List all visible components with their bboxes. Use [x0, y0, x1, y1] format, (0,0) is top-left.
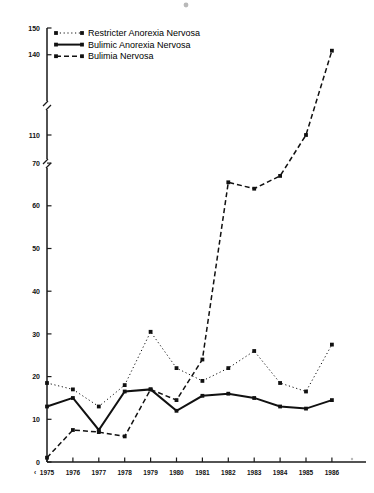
data-point-marker: [330, 49, 334, 53]
data-point-marker: [330, 343, 334, 347]
x-tick-label: 1982: [221, 469, 236, 476]
legend-label: Bulimia Nervosa: [88, 51, 154, 61]
y-tick-label: 60: [32, 202, 40, 209]
legend-label: Restricter Anorexia Nervosa: [88, 28, 200, 38]
y-tick-label: 10: [32, 416, 40, 423]
x-tick-label: 1983: [247, 469, 262, 476]
data-point-marker: [175, 409, 179, 413]
data-point-marker: [278, 174, 282, 178]
data-point-marker: [97, 430, 101, 434]
data-point-marker: [226, 180, 230, 184]
x-tick-label: 1978: [117, 469, 132, 476]
data-point-marker: [71, 428, 75, 432]
x-tick-label: 1985: [299, 469, 314, 476]
data-point-marker: [175, 366, 179, 370]
y-tick-label: 50: [32, 245, 40, 252]
legend-marker-start: [54, 31, 58, 35]
data-point-marker: [201, 358, 205, 362]
scan-artifact-speck: [184, 3, 189, 8]
data-point-marker: [123, 383, 127, 387]
legend-label: Bulimic Anorexia Nervosa: [88, 40, 191, 50]
y-tick-label: 40: [32, 288, 40, 295]
data-point-marker: [226, 366, 230, 370]
x-tick-label: 1986: [325, 469, 340, 476]
data-point-marker: [45, 456, 49, 460]
data-point-marker: [71, 396, 75, 400]
y-tick-label: 20: [32, 373, 40, 380]
data-point-marker: [304, 133, 308, 137]
data-point-marker: [71, 388, 75, 392]
x-tick-label: 1984: [273, 469, 288, 476]
y-tick-label: 70: [32, 160, 40, 167]
data-point-marker: [252, 349, 256, 353]
legend-marker-start: [54, 43, 58, 47]
data-point-marker: [123, 435, 127, 439]
y-tick-label: 150: [28, 25, 40, 32]
x-tick-label: 1979: [143, 469, 158, 476]
legend-marker-end: [80, 43, 84, 47]
data-point-marker: [330, 398, 334, 402]
data-point-marker: [201, 394, 205, 398]
data-point-marker: [123, 390, 127, 394]
data-point-marker: [149, 330, 153, 334]
line-chart: 010203040506070110140150 197519761977197…: [0, 0, 374, 493]
legend-marker-end: [80, 31, 84, 35]
x-tick-label: 1975: [40, 469, 55, 476]
legend-marker-end: [80, 54, 84, 58]
data-point-marker: [252, 187, 256, 191]
data-point-marker: [175, 398, 179, 402]
x-tick-label: 1976: [66, 469, 81, 476]
y-tick-label: 110: [29, 132, 40, 139]
data-point-marker: [252, 396, 256, 400]
y-tick-label: 0: [36, 459, 40, 466]
chart-background: [0, 0, 374, 493]
data-point-marker: [304, 390, 308, 394]
data-point-marker: [97, 405, 101, 409]
x-tick-label: 1981: [195, 469, 210, 476]
data-point-marker: [226, 392, 230, 396]
data-point-marker: [201, 379, 205, 383]
y-tick-label: 30: [32, 331, 40, 338]
x-tick-label: 1977: [92, 469, 107, 476]
data-point-marker: [149, 388, 153, 392]
data-point-marker: [278, 405, 282, 409]
x-axis-prefix-marker: ‹: [34, 469, 36, 476]
data-point-marker: [278, 381, 282, 385]
data-point-marker: [45, 381, 49, 385]
y-tick-label: 140: [28, 51, 40, 58]
x-tick-label: 1980: [169, 469, 184, 476]
data-point-marker: [45, 405, 49, 409]
legend-marker-start: [54, 54, 58, 58]
scan-artifact-speck-2: [351, 458, 353, 460]
chart-container: 010203040506070110140150 197519761977197…: [0, 0, 374, 493]
data-point-marker: [304, 407, 308, 411]
